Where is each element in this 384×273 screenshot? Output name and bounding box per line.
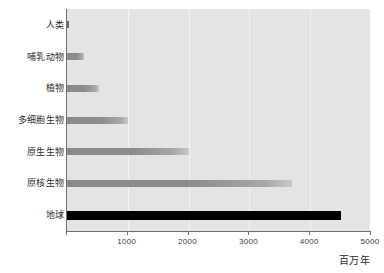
x-axis-tick-label: 3000	[239, 237, 258, 246]
bar[interactable]	[67, 211, 341, 220]
x-axis-tick-mark	[66, 231, 67, 235]
bar[interactable]	[67, 21, 69, 28]
bar-row[interactable]	[67, 141, 370, 163]
bar[interactable]	[67, 85, 99, 92]
bar[interactable]	[67, 148, 189, 155]
bar-row[interactable]	[67, 77, 370, 99]
bar-row[interactable]	[67, 172, 370, 194]
bar[interactable]	[67, 180, 292, 187]
x-axis-title: 百万年	[339, 252, 371, 267]
bar-chart: 人类哺乳动物植物多细胞生物原生生物原核生物地球 1000200030004000…	[0, 0, 384, 273]
x-axis-tick-mark	[309, 231, 310, 235]
y-axis-tick-label: 地球	[0, 210, 64, 220]
plot-area	[66, 9, 370, 231]
y-axis-tick-label: 原核生物	[0, 178, 64, 188]
y-axis-tick-label: 哺乳动物	[0, 52, 64, 62]
bar[interactable]	[67, 53, 84, 60]
x-axis-tick-label: 1000	[117, 237, 136, 246]
x-axis-tick-label: 4000	[300, 237, 319, 246]
y-axis-tick-label: 人类	[0, 20, 64, 30]
y-axis-labels: 人类哺乳动物植物多细胞生物原生生物原核生物地球	[0, 9, 64, 231]
bar-row[interactable]	[67, 204, 370, 226]
y-axis-tick-label: 植物	[0, 83, 64, 93]
x-axis-line	[66, 231, 370, 232]
x-axis-tick-mark	[248, 231, 249, 235]
bar-row[interactable]	[67, 46, 370, 68]
x-axis-tick-label: 2000	[178, 237, 197, 246]
x-axis-tick-mark	[370, 231, 371, 235]
x-axis-tick-label: 5000	[361, 237, 380, 246]
x-axis-tick-mark	[127, 231, 128, 235]
bar-row[interactable]	[67, 14, 370, 36]
x-axis-tick-mark	[188, 231, 189, 235]
bar[interactable]	[67, 117, 128, 124]
y-axis-tick-label: 原生生物	[0, 147, 64, 157]
bar-row[interactable]	[67, 109, 370, 131]
y-axis-tick-label: 多细胞生物	[0, 115, 64, 125]
